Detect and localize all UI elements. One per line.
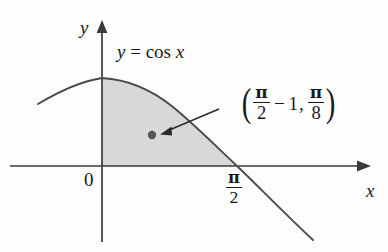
y-axis-label: y: [80, 18, 88, 37]
x-coordinate-offset: 1: [289, 94, 299, 113]
x-coordinate-denominator: 2: [253, 103, 270, 122]
close-paren: ): [326, 87, 336, 120]
origin-label: 0: [84, 170, 94, 189]
half-pi-denominator: 2: [226, 188, 242, 206]
cosine-area-figure: y x 0 y = cos x π 2 ( π 2 − 1 , π 8: [0, 0, 388, 252]
marked-point-dot: [148, 131, 156, 139]
equation-equals: =: [130, 41, 141, 62]
minus-operator: −: [271, 94, 288, 113]
equation-variable: x: [176, 41, 184, 62]
y-coordinate-numerator: π: [308, 84, 325, 103]
y-coordinate-fraction: π 8: [308, 84, 325, 122]
coordinate-comma: ,: [299, 94, 307, 113]
half-pi-numerator: π: [226, 170, 242, 188]
coordinate-contents: π 2 − 1 , π 8: [253, 84, 324, 122]
graph-canvas: [0, 0, 388, 252]
curve-equation-label: y = cos x: [117, 42, 184, 61]
y-axis-arrowhead: [97, 20, 108, 33]
equation-lhs: y: [117, 41, 125, 62]
shaded-area-region: [102, 78, 237, 166]
x-axis-arrowhead: [357, 161, 371, 172]
x-axis-label: x: [366, 181, 374, 200]
point-coordinate-label: ( π 2 − 1 , π 8 ): [240, 84, 338, 122]
open-paren: (: [242, 87, 252, 120]
x-coordinate-fraction: π 2: [253, 84, 270, 122]
x-axis-tick-label-half-pi: π 2: [226, 170, 242, 206]
x-coordinate-numerator: π: [253, 84, 270, 103]
equation-function: cos: [146, 41, 171, 62]
half-pi-fraction: π 2: [226, 170, 242, 206]
y-coordinate-denominator: 8: [308, 103, 325, 122]
